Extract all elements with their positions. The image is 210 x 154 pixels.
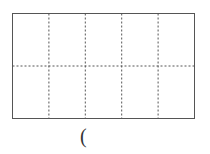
caption-paren: ( xyxy=(80,126,87,146)
outer-rectangle xyxy=(13,14,195,119)
grid-diagram xyxy=(0,0,210,154)
